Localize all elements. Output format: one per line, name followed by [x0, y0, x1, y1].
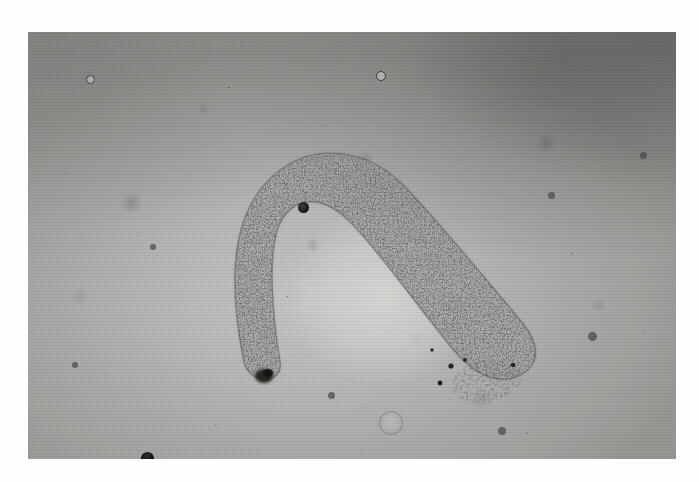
photomicrograph-plate [28, 32, 676, 459]
scale-bar-label [0, 0, 1, 1]
page-margin-bottom [0, 459, 699, 482]
magnification-label [0, 0, 1, 1]
film-grain [28, 32, 676, 459]
page-margin-left [0, 0, 28, 482]
figure-page [0, 0, 699, 482]
page-margin-top [0, 0, 699, 32]
page-margin-right [676, 0, 699, 482]
figure-caption [0, 0, 1, 1]
